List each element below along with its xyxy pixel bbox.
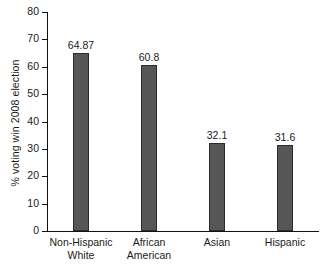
bar: 60.8 — [141, 65, 157, 231]
y-axis-tick-label: 30 — [27, 142, 39, 154]
y-axis-line — [47, 12, 48, 231]
bar-value-label: 31.6 — [275, 131, 295, 143]
bar: 64.87 — [73, 53, 89, 231]
y-axis-title: % voting win 2008 election — [9, 3, 23, 243]
y-axis-tick-label: 50 — [27, 87, 39, 99]
x-axis-category-line: Hispanic — [239, 236, 328, 249]
x-axis-category-label: Hispanic — [239, 236, 328, 249]
y-axis-tick-label: 60 — [27, 60, 39, 72]
y-axis-tick: 60 — [42, 67, 47, 68]
bar-value-label: 60.8 — [139, 51, 159, 63]
y-axis-tick: 50 — [42, 94, 47, 95]
x-axis-line — [47, 231, 319, 232]
y-axis-tick-label: 0 — [33, 224, 39, 236]
y-axis-tick: 20 — [42, 176, 47, 177]
bar-chart-figure: % voting win 2008 election 0102030405060… — [0, 0, 328, 273]
bar-value-label: 64.87 — [68, 39, 94, 51]
y-axis-tick: 80 — [42, 12, 47, 13]
bar: 32.1 — [209, 143, 225, 231]
y-axis-tick-label: 40 — [27, 115, 39, 127]
y-axis-tick: 40 — [42, 122, 47, 123]
bar: 31.6 — [277, 145, 293, 232]
bar-value-label: 32.1 — [207, 129, 227, 141]
y-axis-tick: 30 — [42, 149, 47, 150]
y-axis-tick-label: 20 — [27, 169, 39, 181]
y-axis-tick-label: 10 — [27, 197, 39, 209]
y-axis-tick-label: 80 — [27, 5, 39, 17]
y-axis-tick: 10 — [42, 204, 47, 205]
y-axis-tick: 0 — [42, 231, 47, 232]
y-axis-tick-label: 70 — [27, 32, 39, 44]
x-axis-category-line: American — [103, 249, 195, 262]
y-axis-tick: 70 — [42, 39, 47, 40]
plot-area: 01020304050607080 64.8760.832.131.6 Non-… — [47, 12, 319, 231]
